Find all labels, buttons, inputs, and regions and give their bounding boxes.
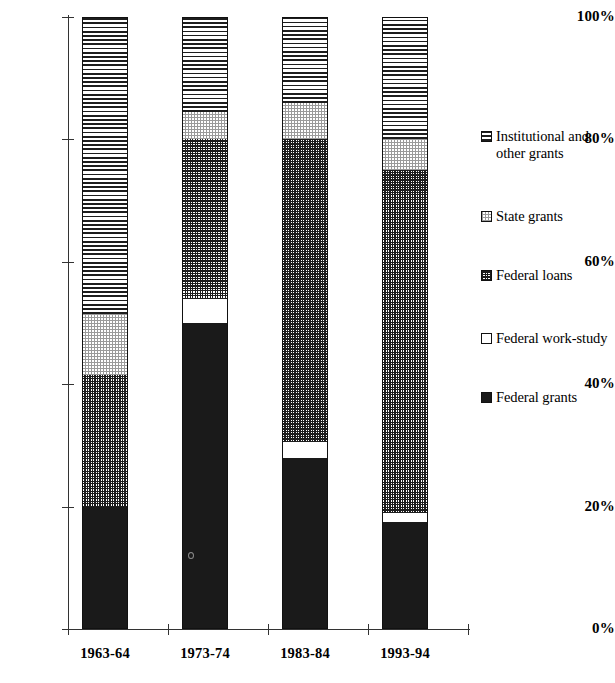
legend-label: Federal grants: [496, 389, 577, 406]
bar-segment-federal-work-study[interactable]: [282, 442, 328, 457]
scan-artifact-speck: [188, 552, 194, 559]
legend-label: Federal loans: [496, 267, 572, 284]
bar-segment-state-grants[interactable]: [82, 314, 128, 375]
bar-segment-federal-loans[interactable]: [282, 139, 328, 442]
x-axis-tick: [468, 624, 469, 635]
legend-item-state-grants[interactable]: State grants: [481, 208, 615, 225]
bar-segment-federal-loans[interactable]: [382, 170, 428, 513]
bar-segment-institutional-and-other-grants[interactable]: [282, 17, 328, 103]
plot-region: [68, 17, 468, 629]
bar-segment-institutional-and-other-grants[interactable]: [182, 17, 228, 112]
legend-item-federal-grants[interactable]: Federal grants: [481, 389, 615, 406]
legend-label: Institutional and other grants: [496, 128, 615, 162]
bar-1963-64[interactable]: [82, 17, 128, 629]
y-axis-tick-label: 20%: [563, 499, 615, 514]
stacked-bar-chart: 0%20%40%60%80%100% 1963-641973-741983-84…: [0, 0, 615, 683]
bar-segment-state-grants[interactable]: [382, 139, 428, 170]
x-axis-tick-label: 1983-84: [260, 645, 350, 662]
bar-segment-federal-grants[interactable]: [382, 522, 428, 629]
y-axis-tick-label: 100%: [563, 9, 615, 24]
legend-swatch-state-grants-icon: [481, 211, 492, 222]
bar-1973-74[interactable]: [182, 17, 228, 629]
bar-segment-federal-grants[interactable]: [82, 507, 128, 629]
bar-segment-federal-loans[interactable]: [82, 375, 128, 507]
legend-swatch-federal-loans-icon: [481, 270, 492, 281]
bar-segment-state-grants[interactable]: [182, 112, 228, 140]
x-axis-tick-label: 1973-74: [160, 645, 250, 662]
x-axis-tick-label: 1963-64: [60, 645, 150, 662]
bar-1993-94[interactable]: [382, 17, 428, 629]
legend-swatch-institutional-and-other-grants-icon: [481, 131, 492, 142]
bar-1983-84[interactable]: [282, 17, 328, 629]
legend-label: Federal work-study: [496, 330, 607, 347]
bar-segment-federal-grants[interactable]: [282, 458, 328, 629]
bar-segment-federal-work-study[interactable]: [182, 299, 228, 323]
x-axis-line: [68, 629, 470, 630]
bar-segment-federal-loans[interactable]: [182, 139, 228, 298]
bar-segment-federal-grants[interactable]: [182, 323, 228, 629]
bar-segment-institutional-and-other-grants[interactable]: [382, 17, 428, 139]
bar-segment-state-grants[interactable]: [282, 103, 328, 140]
legend-item-federal-work-study[interactable]: Federal work-study: [481, 330, 615, 347]
y-axis-tick-label: 0%: [563, 621, 615, 636]
bar-segment-institutional-and-other-grants[interactable]: [82, 17, 128, 314]
chart-legend: Institutional and other grantsState gran…: [481, 128, 615, 406]
legend-swatch-federal-grants-icon: [481, 392, 492, 403]
x-axis-tick-label: 1993-94: [360, 645, 450, 662]
bar-segment-federal-work-study[interactable]: [382, 513, 428, 522]
legend-label: State grants: [496, 208, 563, 225]
legend-swatch-federal-work-study-icon: [481, 333, 492, 344]
legend-item-federal-loans[interactable]: Federal loans: [481, 267, 615, 284]
legend-item-institutional-and-other-grants[interactable]: Institutional and other grants: [481, 128, 615, 162]
